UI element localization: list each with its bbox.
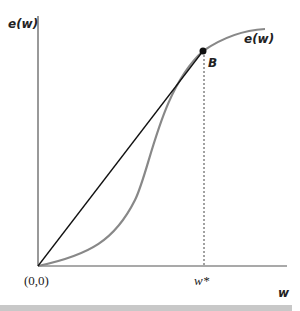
point-b-label: B [208, 56, 217, 70]
x-axis-label: w [278, 286, 290, 300]
w-star-label: w* [194, 273, 210, 288]
origin-label: (0,0) [24, 273, 49, 288]
point-b [200, 48, 207, 55]
y-axis-label: e(w) [8, 17, 38, 31]
bottom-divider [0, 305, 292, 311]
effort-curve [38, 29, 265, 266]
diagram-canvas: e(w) e(w) B (0,0) w* w [0, 0, 300, 311]
tangent-line [38, 51, 203, 266]
curve-label: e(w) [244, 32, 274, 46]
